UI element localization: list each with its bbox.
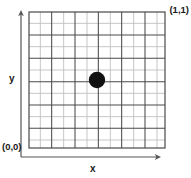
x-axis-line [21, 154, 161, 160]
coordinate-grid-figure: (1,1) (0,0) y x [0, 0, 191, 178]
grid-diagram-svg [0, 0, 191, 178]
y-axis-label: y [9, 74, 15, 84]
corner-label-top-right: (1,1) [169, 5, 189, 15]
x-axis-label: x [90, 164, 96, 174]
y-axis-line [18, 10, 24, 157]
data-point-marker [89, 72, 105, 88]
corner-label-origin: (0,0) [2, 142, 22, 152]
